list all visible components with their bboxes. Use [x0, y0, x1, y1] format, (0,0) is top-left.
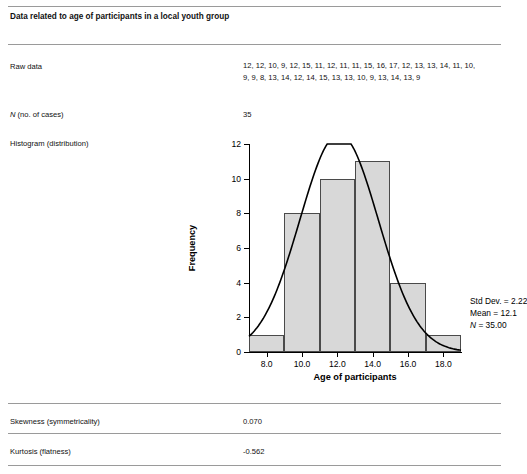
divider-under-title	[8, 44, 501, 45]
x-axis-tick: 18.0	[443, 352, 444, 357]
histogram-label: Histogram (distribution)	[10, 139, 89, 148]
x-axis-tick: 8.0	[267, 352, 268, 357]
plot-area: 024681012 8.010.012.014.016.018.0	[249, 144, 461, 352]
chart-annotations: Std Dev. = 2.22 Mean = 12.1 N = 35.00	[470, 296, 527, 332]
divider-above-skewness	[8, 403, 501, 404]
x-axis-tick-label: 14.0	[364, 359, 381, 369]
y-axis-tick: 8	[244, 213, 249, 214]
kurtosis-value: -0.562	[243, 447, 265, 456]
n-annotation: N = 35.00	[470, 320, 527, 332]
x-axis-tick: 12.0	[337, 352, 338, 357]
x-axis-label: Age of participants	[249, 372, 461, 382]
raw-data-label: Raw data	[10, 62, 42, 71]
y-axis-tick: 2	[244, 317, 249, 318]
y-axis-tick-label: 2	[236, 312, 241, 322]
x-axis-tick-label: 8.0	[261, 359, 273, 369]
x-axis-tick-label: 12.0	[329, 359, 346, 369]
x-axis-tick-label: 18.0	[435, 359, 452, 369]
x-axis-tick: 16.0	[408, 352, 409, 357]
y-axis-label: Frequency	[187, 225, 197, 271]
y-axis-tick-label: 0	[236, 347, 241, 357]
raw-data-value: 12, 12, 10, 9, 12, 15, 11, 12, 11, 11, 1…	[243, 60, 483, 84]
y-axis-tick: 12	[244, 144, 249, 145]
y-axis-tick: 4	[244, 283, 249, 284]
divider-bottom	[8, 465, 501, 466]
y-axis-tick-label: 8	[236, 208, 241, 218]
y-axis-tick-label: 4	[236, 278, 241, 288]
mean-annotation: Mean = 12.1	[470, 308, 527, 320]
n-annotation-text: = 35.00	[476, 320, 507, 330]
page-title: Data related to age of participants in a…	[10, 11, 250, 23]
std-dev-annotation: Std Dev. = 2.22	[470, 296, 527, 308]
y-axis-tick: 0	[244, 352, 249, 353]
divider-top	[8, 6, 501, 7]
normal-curve-overlay	[249, 144, 462, 353]
y-axis-tick-label: 10	[231, 174, 241, 184]
y-axis-tick: 6	[244, 248, 249, 249]
x-axis-tick: 14.0	[373, 352, 374, 357]
kurtosis-label: Kurtosis (flatness)	[10, 447, 71, 456]
x-axis-tick-label: 10.0	[294, 359, 311, 369]
n-cases-label-text: (no. of cases)	[15, 110, 63, 119]
y-axis-tick-label: 6	[236, 243, 241, 253]
histogram-chart: Frequency 024681012 8.010.012.014.016.01…	[186, 136, 496, 398]
n-cases-label: N (no. of cases)	[10, 110, 64, 119]
skewness-value: 0.070	[243, 417, 262, 426]
y-axis-tick: 10	[244, 179, 249, 180]
x-axis-tick-label: 16.0	[400, 359, 417, 369]
x-axis-tick: 10.0	[302, 352, 303, 357]
y-axis-tick-label: 12	[231, 139, 241, 149]
divider-above-kurtosis	[8, 433, 501, 434]
skewness-label: Skewness (symmetricality)	[10, 417, 100, 426]
n-cases-value: 35	[243, 110, 251, 119]
